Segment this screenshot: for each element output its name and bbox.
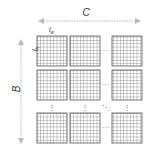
tile-block [37,113,67,143]
height-dimension-label: B [11,85,22,92]
tile-block [112,70,142,100]
tile-block [37,70,67,100]
vertical-ellipsis: ⋮ [48,103,56,112]
tile-block [37,36,67,66]
tiled-grid-diagram: C B lw lh ··· ··· ··· ⋮ ⋮ ⋮ ⋱ [0,0,151,153]
tile-width-label: lw [49,26,55,35]
horizontal-ellipsis: ··· [103,47,110,54]
horizontal-ellipsis: ··· [103,124,110,131]
width-dimension-label: C [82,7,90,18]
diagonal-ellipsis: ⋱ [102,103,110,112]
tile-block [70,36,100,66]
vertical-ellipsis: ⋮ [81,103,89,112]
tile-block [112,36,142,66]
horizontal-ellipsis: ··· [103,81,110,88]
vertical-ellipsis: ⋮ [123,103,131,112]
tile-block [112,113,142,143]
tile-block [70,70,100,100]
tile-block [70,113,100,143]
